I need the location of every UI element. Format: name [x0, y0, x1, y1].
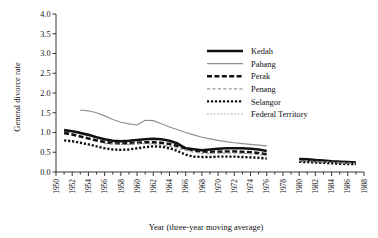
- x-tick-label: 1976: [262, 179, 271, 194]
- x-tick-label: 1974: [246, 179, 255, 194]
- x-tick-label: 1986: [343, 179, 352, 194]
- chart-figure: General divorce rate Year (three-year mo…: [0, 0, 378, 238]
- x-tick-label: 1970: [214, 179, 223, 194]
- x-tick-label: 1982: [311, 179, 320, 194]
- legend-label: Penang: [251, 85, 276, 94]
- x-tick-label: 1950: [52, 179, 61, 194]
- legend-label: Perak: [251, 72, 271, 81]
- x-tick-label: 1956: [100, 179, 109, 194]
- y-tick-label: 4.0: [40, 10, 50, 19]
- y-axis-ticks: 0.00.51.01.52.02.53.03.54.0: [40, 10, 56, 177]
- y-tick-label: 3.0: [40, 49, 50, 58]
- y-tick-label: 1.5: [40, 109, 50, 118]
- x-tick-label: 1968: [198, 179, 207, 194]
- y-tick-label: 3.5: [40, 30, 50, 39]
- x-tick-label: 1972: [230, 179, 239, 194]
- x-tick-label: 1964: [165, 179, 174, 194]
- x-tick-label: 1958: [117, 179, 126, 194]
- x-tick-label: 1984: [327, 179, 336, 194]
- y-tick-label: 2.5: [40, 69, 50, 78]
- x-tick-label: 1954: [84, 179, 93, 194]
- y-tick-label: 2.0: [40, 89, 50, 98]
- x-tick-label: 1978: [279, 179, 288, 194]
- x-tick-label: 1952: [68, 179, 77, 194]
- x-tick-label: 1980: [295, 179, 304, 194]
- legend-label: Kedah: [251, 47, 274, 56]
- line-chart-plot: 0.00.51.01.52.02.53.03.54.0 195019521954…: [0, 0, 378, 238]
- y-tick-label: 1.0: [40, 128, 50, 137]
- legend-label: Selangor: [251, 98, 281, 107]
- data-series: [64, 110, 356, 164]
- x-tick-label: 1960: [133, 179, 142, 194]
- x-axis-ticks: 1950195219541956195819601962196419661968…: [52, 172, 369, 194]
- legend-label: Federal Territory: [251, 110, 309, 119]
- chart-legend: KedahPahangPerakPenangSelangorFederal Te…: [207, 47, 309, 119]
- legend-label: Pahang: [251, 60, 276, 69]
- y-tick-label: 0.0: [40, 168, 50, 177]
- x-tick-label: 1966: [181, 179, 190, 194]
- x-tick-label: 1962: [149, 179, 158, 194]
- y-tick-label: 0.5: [40, 148, 50, 157]
- x-tick-label: 1988: [360, 179, 369, 194]
